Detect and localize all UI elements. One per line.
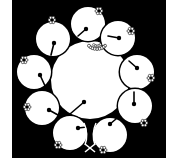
calyx-flower-icon: [127, 27, 135, 34]
calyx-flower-icon: [99, 146, 107, 153]
calyx-flower-icon: [54, 141, 62, 148]
stem-dot: [135, 66, 139, 70]
calyx-flower-icon: [95, 7, 103, 14]
stem-dot: [132, 102, 136, 106]
stem-dot: [108, 122, 112, 126]
stem-dot: [76, 126, 80, 130]
crest-image: [0, 0, 173, 165]
calyx-flower-icon: [23, 103, 31, 110]
stem-dot: [47, 108, 51, 112]
fruit-right: [120, 55, 154, 89]
calyx-flower-icon: [147, 74, 155, 81]
stem-dot: [52, 41, 56, 45]
calyx-flower-icon: [20, 56, 28, 63]
stem-dot: [117, 36, 121, 40]
calyx-flower-icon: [140, 119, 148, 126]
calyx-flower-icon: [48, 16, 56, 23]
fruit-upper-left: [36, 22, 70, 56]
stem-dot: [38, 73, 42, 77]
fruit-lower-right: [118, 89, 152, 123]
stem-dot: [84, 27, 88, 31]
center-stem-dot: [82, 100, 86, 104]
